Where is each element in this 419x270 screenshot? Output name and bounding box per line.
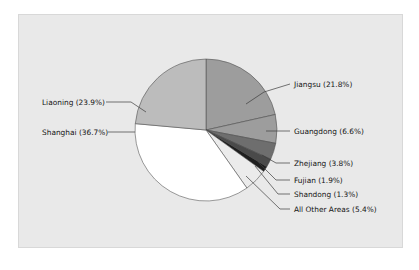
slice-label-jiangsu: Jiangsu (21.8%) — [293, 80, 352, 89]
slice-label-shanghai: Shanghai (36.7%) — [42, 128, 108, 137]
pie-chart-figure: Jiangsu (21.8%)Guangdong (6.6%)Zhejiang … — [0, 0, 419, 270]
slice-label-fujian: Fujian (1.9%) — [294, 176, 343, 185]
slice-label-all-other-areas: All Other Areas (5.4%) — [294, 205, 377, 214]
pie-slice-liaoning[interactable] — [135, 59, 206, 130]
pie-chart-svg: Jiangsu (21.8%)Guangdong (6.6%)Zhejiang … — [0, 0, 419, 270]
slice-label-guangdong: Guangdong (6.6%) — [294, 127, 364, 136]
slice-label-shandong: Shandong (1.3%) — [294, 190, 358, 199]
slice-label-liaoning: Liaoning (23.9%) — [42, 98, 105, 107]
slice-label-zhejiang: Zhejiang (3.8%) — [294, 159, 353, 168]
pie-wedge-group — [135, 59, 277, 201]
